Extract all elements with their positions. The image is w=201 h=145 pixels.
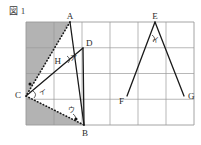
point-label-B: B: [82, 128, 88, 138]
angle-mark-e-label: イ: [152, 36, 159, 44]
segment-E-G: [155, 22, 184, 96]
point-label-C: C: [15, 90, 21, 100]
tick-C-small: °: [29, 97, 31, 102]
point-label-D: D: [86, 38, 93, 48]
figure-canvas: アイウイ°°ABCDHEFG: [0, 0, 201, 145]
angle-mark-i-arc: [33, 91, 36, 98]
point-label-E: E: [152, 11, 158, 21]
segment-E-F: [127, 22, 155, 96]
angle-mark-u-label: ウ: [68, 106, 75, 114]
point-label-F: F: [119, 96, 124, 106]
point-label-H: H: [55, 56, 62, 66]
tick-A-small: °: [65, 24, 67, 29]
point-label-G: G: [188, 91, 195, 101]
dot-left-edge: [29, 83, 32, 86]
angle-mark-i-label: イ: [39, 88, 46, 96]
angle-mark-a-label: ア: [70, 54, 77, 62]
point-label-A: A: [67, 11, 74, 21]
dot-near-B: [75, 118, 78, 121]
segment-D-B: [83, 48, 84, 125]
